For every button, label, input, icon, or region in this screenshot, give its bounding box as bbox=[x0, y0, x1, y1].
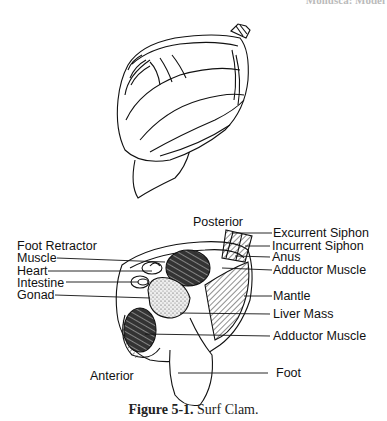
figure-title: Surf Clam. bbox=[197, 402, 258, 417]
label-posterior-adductor-muscle: Adductor Muscle bbox=[273, 264, 366, 277]
dissected-clam bbox=[116, 230, 252, 406]
label-anterior-adductor-muscle: Adductor Muscle bbox=[273, 330, 366, 343]
anterior-label: Anterior bbox=[90, 370, 134, 383]
whole-clam-shell bbox=[117, 24, 250, 198]
label-mantle: Mantle bbox=[273, 290, 311, 303]
posterior-label: Posterior bbox=[193, 216, 243, 229]
label-foot: Foot bbox=[276, 367, 301, 380]
figure-caption: Figure 5-1. Surf Clam. bbox=[0, 402, 387, 418]
label-liver-mass: Liver Mass bbox=[273, 308, 333, 321]
figure-number: Figure 5-1. bbox=[128, 402, 193, 417]
label-gonad: Gonad bbox=[17, 289, 55, 302]
clam-illustrations bbox=[0, 0, 387, 421]
